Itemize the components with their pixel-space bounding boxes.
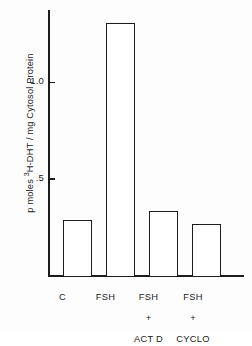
y-axis-label: p moles 3H-DHT / mg Cytosol Protein (25, 18, 35, 248)
y-tick-mark-1 (49, 82, 55, 83)
bar-c (63, 220, 92, 276)
bar-fsh-act-d (149, 211, 178, 277)
x-tick-label-c: C (43, 281, 82, 313)
x-tick-label-fsh-cyclo-line3: CYCLO (172, 334, 214, 345)
x-tick-label-fsh: FSH (86, 281, 125, 313)
x-tick-label-fsh-act-d-line1: FSH (129, 292, 168, 303)
bar-fsh (106, 23, 135, 276)
y-axis-label-container: p moles 3H-DHT / mg Cytosol Protein (0, 0, 40, 280)
y-tick-mark-0 (49, 178, 55, 179)
plot-area: .5 1.0 (48, 10, 244, 278)
y-axis-line (48, 10, 50, 276)
x-tick-label-fsh-act-d-line2: + (129, 313, 168, 324)
x-tick-label-fsh-cyclo-line1: FSH (172, 292, 214, 303)
y-axis-label-part-2: H-DHT / mg Cytosol Protein (25, 53, 35, 172)
x-tick-label-fsh-line1: FSH (86, 292, 125, 303)
x-tick-label-fsh-act-d-line3: ACT D (129, 334, 168, 345)
x-tick-label-fsh-cyclo: FSH + CYCLO (172, 281, 214, 346)
y-tick-label-1: 1.0 (30, 75, 44, 86)
x-tick-label-fsh-cyclo-line2: + (172, 313, 214, 324)
y-axis-label-part-1: p moles (25, 176, 35, 212)
x-tick-label-c-line1: C (43, 292, 82, 303)
bar-fsh-cyclo (192, 224, 221, 276)
y-tick-label-0: .5 (36, 172, 44, 183)
x-tick-label-fsh-act-d: FSH + ACT D (129, 281, 168, 346)
y-axis-label-superscript: 3 (23, 172, 30, 176)
